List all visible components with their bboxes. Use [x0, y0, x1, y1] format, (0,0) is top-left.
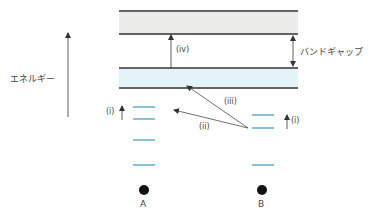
upper-band [119, 11, 298, 34]
transition-iii-label: (iii) [224, 97, 237, 106]
energy-label: エネルギー [10, 72, 55, 85]
transition-ii-label: (ii) [199, 122, 210, 131]
transition-iii-arrow [187, 86, 248, 128]
band-diagram-graphics [0, 0, 384, 219]
impurity-A-levels [133, 107, 155, 165]
transition-i-label-A: (i) [106, 107, 114, 116]
impurity-B-levels [252, 115, 274, 165]
band-gap-arrow [290, 35, 296, 67]
transition-iv-label: (iv) [176, 45, 189, 54]
transition-i-label-B: (i) [291, 116, 299, 125]
transition-ii-arrow [174, 110, 248, 128]
impurity-B-label: B [258, 199, 264, 209]
lower-band [119, 68, 298, 88]
impurity-B-dot [257, 185, 267, 195]
impurity-A-label: A [140, 199, 146, 209]
band-gap-label: バンドギャップ [300, 45, 363, 58]
impurity-A-dot [139, 185, 149, 195]
